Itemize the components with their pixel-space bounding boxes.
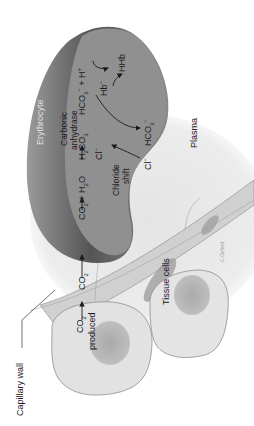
artist-signature: C.Oxford: [218, 242, 227, 262]
co2-transport-diagram: Erythrocyte Carbonic anhydrase CO2 + H2O…: [0, 0, 254, 426]
capillary-wall-leader-line: [0, 0, 254, 426]
